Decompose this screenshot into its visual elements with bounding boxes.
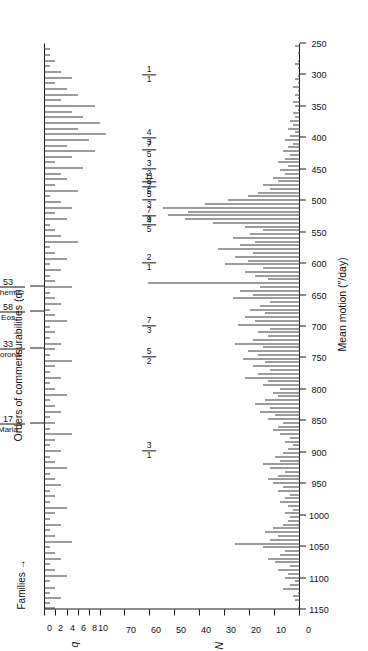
q-spike (44, 569, 55, 570)
x-tick-label: 650 (308, 290, 330, 300)
histogram-bar (265, 531, 300, 532)
bottom-axis-title: Mean motion (″/day) (336, 257, 348, 351)
commensurability-label: 11 (142, 65, 156, 83)
histogram-bar (295, 45, 300, 46)
q-spike (44, 201, 61, 202)
x-tick (300, 325, 306, 326)
histogram-bar (285, 550, 300, 551)
histogram-bar (270, 188, 300, 189)
commensurability-label: 52 (142, 346, 156, 364)
x-tick-label: 1050 (308, 541, 330, 551)
histogram-bar (278, 426, 301, 427)
q-spike (44, 529, 50, 530)
q-spike (44, 518, 50, 519)
q-spike (44, 394, 67, 395)
q-spike (44, 524, 61, 525)
histogram-bar (290, 120, 300, 121)
q-spike (44, 597, 61, 598)
histogram-bar (273, 482, 301, 483)
commensurability-denominator: 1 (142, 449, 156, 459)
q-spike (44, 235, 61, 236)
x-tick (300, 577, 306, 578)
histogram-bar (258, 373, 301, 374)
family-label: 58Eos (0, 301, 25, 321)
histogram-bar (250, 233, 300, 234)
histogram-bar (298, 90, 301, 91)
q-spike (44, 445, 50, 446)
q-spike (44, 587, 55, 588)
histogram-bar (285, 512, 300, 513)
commensurability-numerator: 7 (142, 206, 156, 215)
commensurability-numerator: 5 (142, 190, 156, 199)
q-spike (44, 292, 50, 293)
histogram-bar (285, 139, 300, 140)
histogram-bar (275, 561, 300, 562)
q-spike (44, 360, 72, 361)
commensurability-label: 31 (142, 441, 156, 459)
q-spike (44, 371, 50, 372)
q-spike (44, 88, 67, 89)
q-spike (44, 428, 50, 429)
q-spike (44, 377, 61, 378)
histogram-bar (255, 403, 300, 404)
histogram-bar (263, 184, 301, 185)
q-spike (44, 297, 55, 298)
q-spike (44, 399, 50, 400)
histogram-bar (280, 388, 300, 389)
q-spike (44, 422, 55, 423)
x-tick (300, 451, 306, 452)
commensurability-numerator: 7 (142, 140, 156, 149)
histogram-bar (288, 448, 301, 449)
histogram-bar (295, 78, 300, 79)
x-tick (300, 608, 306, 609)
commensurability-numerator: 9 (142, 215, 156, 224)
histogram-bar (288, 573, 301, 574)
histogram-bar (240, 245, 300, 246)
q-spike (44, 286, 72, 287)
histogram-bar (235, 343, 300, 344)
q-spike (44, 490, 50, 491)
q-tick (67, 609, 68, 615)
histogram-bar (283, 452, 301, 453)
q-spike (44, 331, 55, 332)
q-spike (44, 269, 61, 270)
histogram-bar (263, 346, 301, 347)
n-tick (174, 609, 175, 615)
histogram-bar (235, 543, 300, 544)
commensurability-denominator: 5 (142, 224, 156, 234)
histogram-bar (293, 86, 301, 87)
commensurability-denominator: 1 (142, 261, 156, 271)
q-spike (44, 411, 61, 412)
histogram-bar (278, 395, 301, 396)
q-spike (44, 326, 50, 327)
histogram-bar (270, 467, 300, 468)
q-spike (44, 218, 67, 219)
n-tick (199, 609, 200, 615)
histogram-bar (148, 282, 301, 283)
histogram-bar (273, 528, 301, 529)
commensurability-label: 21 (142, 253, 156, 271)
q-spike (44, 122, 100, 123)
x-tick (300, 105, 306, 106)
q-spike (44, 354, 50, 355)
q-spike (44, 207, 72, 208)
family-stem (30, 285, 44, 286)
q-spike (44, 416, 50, 417)
x-tick-label: 1100 (308, 573, 330, 583)
q-spike (44, 320, 67, 321)
x-tick (300, 136, 306, 137)
histogram-bar (273, 392, 301, 393)
n-tick-label: 20 (241, 624, 261, 634)
histogram-bar (275, 456, 300, 457)
histogram-bar (280, 501, 300, 502)
q-spike (44, 535, 55, 536)
histogram-bar (238, 324, 301, 325)
q-spike (44, 116, 83, 117)
histogram-bar (225, 263, 300, 264)
histogram-bar (285, 173, 300, 174)
commensurability-numerator: 7 (142, 316, 156, 325)
histogram-bar (245, 226, 300, 227)
q-spike (44, 128, 78, 129)
q-spike (44, 382, 50, 383)
histogram-bar (290, 135, 300, 136)
